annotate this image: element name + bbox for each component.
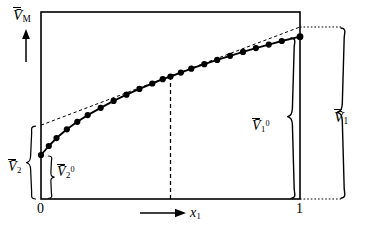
x-axis-label-subscript: 1: [197, 211, 201, 221]
plot-canvas: [0, 0, 367, 234]
annotation-v2-bar-symbol: V̄: [8, 160, 17, 174]
annotation-v1-pure-superscript: 0: [265, 119, 269, 128]
annotation-v2-pure-symbol: V̄: [57, 165, 66, 179]
annotation-v1-pure: V̄10: [252, 119, 270, 134]
x-axis-label: x1: [190, 206, 201, 221]
annotation-v1-pure-symbol: V̄: [252, 119, 261, 133]
y-axis-arrow: [22, 29, 30, 62]
y-axis-label-symbol: V̄: [13, 8, 22, 23]
x-axis-tick-1: 1: [296, 202, 303, 216]
x-axis-label-symbol: x: [190, 205, 196, 220]
annotation-v1-bar-subscript: 1: [344, 116, 349, 126]
annotation-v2-pure: V̄20: [57, 165, 75, 180]
brace-v2-bar: [27, 126, 36, 199]
y-axis-label: V̄M: [13, 8, 31, 24]
molar-volume-curve: [41, 37, 300, 155]
x-axis-arrow: [140, 209, 186, 217]
annotation-v2-pure-superscript: 0: [70, 165, 74, 174]
annotation-v1-bar-symbol: V̄: [334, 110, 343, 125]
annotation-v2-bar: V̄2: [8, 160, 21, 175]
brace-v2-pure: [49, 156, 55, 198]
brace-v1-pure: [288, 38, 295, 198]
annotation-v2-bar-subscript: 2: [17, 165, 21, 175]
figure-container: V̄M V̄2 V̄20 V̄10 V̄1 0 1 x1: [0, 0, 367, 234]
y-axis-label-subscript: M: [23, 14, 31, 24]
x-axis-tick-0: 0: [37, 202, 44, 216]
annotation-v1-bar: V̄1: [334, 110, 348, 126]
